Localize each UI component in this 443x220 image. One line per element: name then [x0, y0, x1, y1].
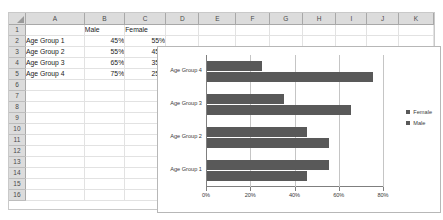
chart-legend: FemaleMale: [406, 109, 432, 131]
cell-a7[interactable]: [25, 90, 84, 101]
cell-h1[interactable]: [302, 24, 335, 35]
cell-g1[interactable]: [269, 24, 302, 35]
cell-a10[interactable]: [25, 123, 84, 134]
cell-a5[interactable]: Age Group 4: [25, 68, 84, 79]
legend-label: Male: [413, 120, 425, 126]
cell-a4[interactable]: Age Group 3: [25, 57, 84, 68]
cell-b5[interactable]: 75%: [84, 68, 124, 79]
chart-x-tick-label: 60%: [333, 192, 344, 198]
cell-b11[interactable]: [84, 134, 124, 145]
chart-category-label: Age Group 2: [170, 133, 202, 139]
cell-a12[interactable]: [25, 145, 84, 156]
chart-x-tick: [250, 187, 251, 191]
row-header-12[interactable]: 12: [9, 145, 25, 156]
column-header-a[interactable]: A: [25, 13, 84, 24]
cell-a11[interactable]: [25, 134, 84, 145]
legend-label: Female: [413, 109, 432, 115]
cell-d1[interactable]: [166, 24, 199, 35]
cell-b7[interactable]: [84, 90, 124, 101]
cell-j2[interactable]: [367, 35, 398, 46]
cell-c1[interactable]: Female: [125, 24, 166, 35]
row-header-4[interactable]: 4: [9, 57, 25, 68]
cell-k2[interactable]: [398, 35, 433, 46]
chart-bar: [207, 94, 284, 104]
chart-bar: [207, 61, 262, 71]
cell-c2[interactable]: 55%: [125, 35, 166, 46]
cell-j1[interactable]: [367, 24, 398, 35]
cell-b4[interactable]: 65%: [84, 57, 124, 68]
cell-i1[interactable]: [336, 24, 367, 35]
row-header-3[interactable]: 3: [9, 46, 25, 57]
row-header-6[interactable]: 6: [9, 79, 25, 90]
cell-b2[interactable]: 45%: [84, 35, 124, 46]
cell-a9[interactable]: [25, 112, 84, 123]
cell-b6[interactable]: [84, 79, 124, 90]
row-header-1[interactable]: 1: [9, 24, 25, 35]
column-header-i[interactable]: I: [336, 13, 367, 24]
column-header-d[interactable]: D: [166, 13, 199, 24]
cell-b8[interactable]: [84, 101, 124, 112]
row-header-15[interactable]: 15: [9, 178, 25, 189]
cell-a3[interactable]: Age Group 2: [25, 46, 84, 57]
row-header-8[interactable]: 8: [9, 101, 25, 112]
chart-category-label: Age Group 4: [170, 67, 202, 73]
cell-i2[interactable]: [336, 35, 367, 46]
cell-a1[interactable]: [25, 24, 84, 35]
chart-x-tick-label: 0%: [202, 192, 210, 198]
cell-k1[interactable]: [398, 24, 433, 35]
cell-f1[interactable]: [236, 24, 269, 35]
chart-legend-item: Female: [406, 109, 432, 115]
select-all-corner[interactable]: [9, 13, 25, 24]
worksheet-frame: ABCDEFGHIJK 1MaleFemale2Age Group 145%55…: [8, 12, 435, 210]
row-header-11[interactable]: 11: [9, 134, 25, 145]
cell-a6[interactable]: [25, 79, 84, 90]
chart-plot-area: 0%20%40%60%80%Age Group 1Age Group 2Age …: [206, 55, 384, 187]
cell-b3[interactable]: 55%: [84, 46, 124, 57]
cell-a14[interactable]: [25, 167, 84, 178]
column-header-e[interactable]: E: [199, 13, 236, 24]
cell-b9[interactable]: [84, 112, 124, 123]
cell-a13[interactable]: [25, 156, 84, 167]
column-header-j[interactable]: J: [367, 13, 398, 24]
cell-b13[interactable]: [84, 156, 124, 167]
chart-bar: [207, 138, 329, 148]
cell-d2[interactable]: [166, 35, 199, 46]
column-header-g[interactable]: G: [269, 13, 302, 24]
worksheet-row: 2Age Group 145%55%: [9, 35, 434, 46]
embedded-bar-chart[interactable]: 0%20%40%60%80%Age Group 1Age Group 2Age …: [157, 46, 441, 213]
column-header-c[interactable]: C: [125, 13, 166, 24]
column-header-h[interactable]: H: [302, 13, 335, 24]
cell-a8[interactable]: [25, 101, 84, 112]
column-header-k[interactable]: K: [398, 13, 433, 24]
cell-b12[interactable]: [84, 145, 124, 156]
cell-a16[interactable]: [25, 189, 84, 200]
chart-x-tick-label: 20%: [245, 192, 256, 198]
row-header-9[interactable]: 9: [9, 112, 25, 123]
cell-a15[interactable]: [25, 178, 84, 189]
cell-b16[interactable]: [84, 189, 124, 200]
spreadsheet-application: ABCDEFGHIJK 1MaleFemale2Age Group 145%55…: [0, 0, 443, 220]
chart-x-tick-label: 80%: [377, 192, 388, 198]
cell-e1[interactable]: [199, 24, 236, 35]
row-header-7[interactable]: 7: [9, 90, 25, 101]
cell-b14[interactable]: [84, 167, 124, 178]
row-header-13[interactable]: 13: [9, 156, 25, 167]
row-header-14[interactable]: 14: [9, 167, 25, 178]
cell-a2[interactable]: Age Group 1: [25, 35, 84, 46]
chart-legend-item: Male: [406, 120, 432, 126]
cell-b15[interactable]: [84, 178, 124, 189]
cell-f2[interactable]: [236, 35, 269, 46]
cell-g2[interactable]: [269, 35, 302, 46]
row-header-2[interactable]: 2: [9, 35, 25, 46]
cell-h2[interactable]: [302, 35, 335, 46]
chart-category-label: Age Group 1: [170, 166, 202, 172]
column-header-f[interactable]: F: [236, 13, 269, 24]
row-header-16[interactable]: 16: [9, 189, 25, 200]
cell-b1[interactable]: Male: [84, 24, 124, 35]
legend-swatch-icon: [406, 110, 410, 114]
row-header-10[interactable]: 10: [9, 123, 25, 134]
cell-e2[interactable]: [199, 35, 236, 46]
column-header-b[interactable]: B: [84, 13, 124, 24]
row-header-5[interactable]: 5: [9, 68, 25, 79]
cell-b10[interactable]: [84, 123, 124, 134]
